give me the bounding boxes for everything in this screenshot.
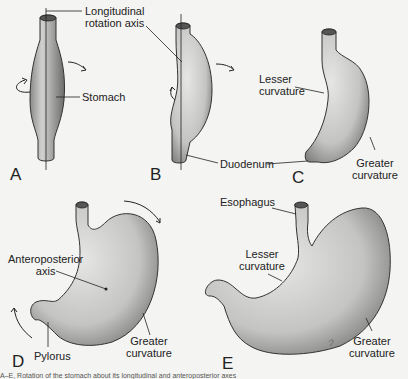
- label-greater-curvature-c: Greater curvature: [352, 157, 398, 181]
- label-lesser-curvature-c: Lesser curvature: [259, 73, 305, 97]
- panel-letter-c: C: [292, 168, 304, 188]
- label-pylorus: Pylorus: [34, 350, 71, 362]
- label-greater-curvature-d: Greater curvature: [126, 335, 172, 359]
- panel-a-stomach: [16, 8, 86, 170]
- panel-letter-b: B: [150, 165, 161, 185]
- figure-caption: A–E, Rotation of the stomach about its l…: [0, 372, 236, 379]
- panel-letter-e: E: [222, 354, 233, 374]
- label-esophagus: Esophagus: [220, 196, 275, 208]
- panel-letter-a: A: [10, 165, 21, 185]
- label-longitudinal-axis: Longitudinal rotation axis: [85, 5, 144, 29]
- label-greater-curvature-e: Greater curvature: [349, 335, 395, 359]
- panel-letter-d: D: [12, 352, 24, 372]
- panel-e-stomach: [205, 202, 390, 354]
- panel-b-stomach: [146, 14, 234, 170]
- label-stomach: Stomach: [82, 91, 125, 103]
- label-anteroposterior-axis: Anteroposterior axis: [8, 253, 83, 277]
- label-lesser-curvature-e: Lesser curvature: [239, 248, 285, 272]
- label-duodenum: Duodenum: [220, 158, 274, 170]
